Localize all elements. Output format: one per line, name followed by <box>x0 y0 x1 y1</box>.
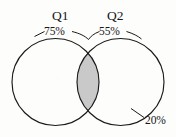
percent-label-q1: 75% <box>44 25 65 37</box>
venn-diagram-figure: Q1 Q2 75% 55% 20% <box>0 0 176 137</box>
set-label-q2: Q2 <box>107 8 124 24</box>
leader-line-outside <box>131 109 144 118</box>
percent-label-q2: 55% <box>99 25 120 37</box>
leader-line-q2-left <box>89 32 100 40</box>
percent-label-outside: 20% <box>145 114 166 126</box>
leader-line-q2-right <box>127 32 142 40</box>
leader-line-q1-left <box>35 32 45 37</box>
leader-line-q1-right <box>72 32 89 40</box>
set-label-q1: Q1 <box>52 8 69 24</box>
